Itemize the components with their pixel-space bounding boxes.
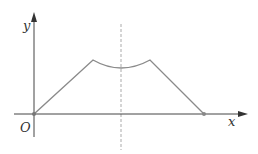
y-axis-arrow-icon: [31, 12, 37, 22]
x-axis-arrow-icon: [238, 111, 248, 117]
function-curve: [34, 60, 204, 114]
x-intercept-point: [202, 112, 206, 116]
origin-label: O: [20, 120, 31, 135]
x-axis-label: x: [228, 114, 236, 129]
origin-point: [32, 112, 36, 116]
graph-canvas: y O x: [0, 0, 258, 154]
y-axis-label: y: [22, 18, 31, 33]
function-graph-figure: y O x: [0, 0, 258, 154]
